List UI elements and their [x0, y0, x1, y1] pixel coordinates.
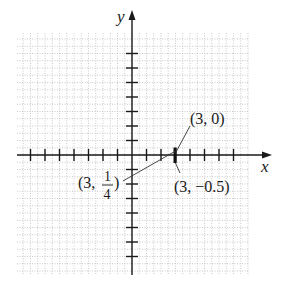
annotation-3-0: (3, 0)	[190, 110, 225, 128]
coordinate-plane-figure: y x (3, 0) (3, 1 4 ) (3, −0.5)	[0, 0, 284, 291]
x-axis-label: x	[260, 157, 269, 176]
annotation-3-quarter-denominator: 4	[104, 187, 111, 202]
annotation-3-neg-half: (3, −0.5)	[174, 178, 230, 196]
coordinate-plane-svg: y x (3, 0) (3, 1 4 ) (3, −0.5)	[0, 0, 284, 291]
highlight-segment-x3	[174, 148, 177, 164]
annotation-3-quarter-prefix: (3,	[78, 174, 95, 192]
annotation-3-quarter-suffix: )	[114, 174, 119, 192]
annotation-3-quarter-numerator: 1	[104, 169, 111, 184]
y-axis-arrow-icon	[129, 10, 136, 20]
y-axis-label: y	[115, 7, 125, 26]
annotation-3-quarter: (3, 1 4 )	[78, 169, 119, 202]
axes	[17, 10, 272, 275]
leader-3-neg-half	[176, 163, 181, 173]
leader-lines	[123, 126, 190, 181]
